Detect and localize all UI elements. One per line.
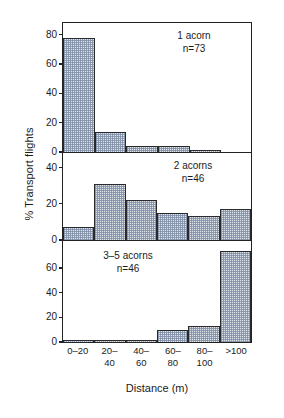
bar-80-100 bbox=[190, 150, 222, 152]
tick-mark bbox=[59, 167, 63, 168]
x-axis-title: Distance (m) bbox=[62, 382, 252, 394]
tick-mark bbox=[59, 267, 63, 268]
xtick-40-60: 40– 60 bbox=[125, 345, 157, 368]
bar-20-40 bbox=[94, 340, 125, 342]
tick-mark bbox=[59, 292, 63, 293]
figure-histogram-transport-flights: % Transport flights 0 20 bbox=[0, 0, 284, 418]
bar-80-100 bbox=[188, 326, 219, 342]
xtick-80-100: 80– 100 bbox=[189, 345, 221, 368]
x-axis-tick-labels: 0–20 20– 40 40– 60 60– 80 80– 100 >100 bbox=[62, 345, 252, 368]
panel-stack: 0 20 40 60 80 1 bbox=[62, 22, 252, 343]
tick-mark bbox=[59, 317, 63, 318]
panel-1-annotation: 1 acorn n=73 bbox=[151, 29, 237, 55]
panel-1-annotation-line1: 1 acorn bbox=[177, 30, 210, 41]
bar-0-20 bbox=[63, 340, 94, 342]
xtick-60-80: 60– 80 bbox=[157, 345, 189, 368]
panel-3-annotation-line2: n=46 bbox=[81, 262, 175, 275]
bar-60-80 bbox=[157, 330, 188, 342]
panel-2-annotation-line2: n=46 bbox=[147, 172, 239, 185]
bar-60-80 bbox=[158, 146, 190, 152]
tick-mark bbox=[59, 341, 63, 342]
plot-area-panel-2: 0 20 40 2 acorns n=46 bbox=[63, 153, 251, 240]
tick-label: 20 bbox=[46, 310, 57, 323]
panel-3-annotation-line1: 3–5 acorns bbox=[103, 250, 152, 261]
bar-40-60 bbox=[126, 146, 158, 152]
tick-label: 60 bbox=[46, 57, 57, 70]
tick-label: 40 bbox=[46, 161, 57, 174]
bar-over-100 bbox=[220, 251, 251, 342]
panel-1-acorn: 0 20 40 60 80 1 bbox=[62, 22, 252, 153]
panel-3-5-acorns: 0 20 40 60 3–5 acorns n=46 bbox=[62, 241, 252, 343]
panel-2-annotation: 2 acorns n=46 bbox=[147, 159, 239, 185]
xtick-0-20: 0–20 bbox=[62, 345, 94, 368]
y-axis-title: % Transport flights bbox=[23, 89, 35, 259]
tick-mark bbox=[59, 203, 63, 204]
panel-1-annotation-line2: n=73 bbox=[151, 42, 237, 55]
xtick-over-100: >100 bbox=[220, 345, 252, 368]
xtick-20-40: 20– 40 bbox=[94, 345, 126, 368]
tick-label: 0 bbox=[51, 335, 57, 348]
panel-2-acorns: 0 20 40 2 acorns n=46 bbox=[62, 153, 252, 241]
panel-3-annotation: 3–5 acorns n=46 bbox=[81, 249, 175, 275]
tick-label: 0 bbox=[51, 145, 57, 158]
bar-40-60 bbox=[126, 200, 157, 240]
bar-40-60 bbox=[126, 340, 157, 342]
bar-20-40 bbox=[94, 184, 125, 240]
plot-area-panel-3: 0 20 40 60 3–5 acorns n=46 bbox=[63, 241, 251, 342]
bar-0-20 bbox=[63, 38, 95, 152]
panel-2-annotation-line1: 2 acorns bbox=[174, 160, 212, 171]
bar-0-20 bbox=[63, 227, 94, 240]
tick-label: 40 bbox=[46, 86, 57, 99]
tick-label: 20 bbox=[46, 197, 57, 210]
tick-label: 0 bbox=[51, 233, 57, 246]
tick-label: 60 bbox=[46, 261, 57, 274]
tick-mark bbox=[59, 63, 63, 64]
bar-over-100 bbox=[220, 209, 251, 240]
plot-area-panel-1: 0 20 40 60 80 1 bbox=[63, 23, 251, 152]
bar-60-80 bbox=[157, 213, 188, 240]
tick-label: 40 bbox=[46, 286, 57, 299]
tick-label: 20 bbox=[46, 116, 57, 129]
tick-mark bbox=[59, 93, 63, 94]
tick-mark bbox=[59, 34, 63, 35]
tick-label: 80 bbox=[46, 28, 57, 41]
bar-20-40 bbox=[95, 132, 127, 153]
bar-80-100 bbox=[188, 216, 219, 240]
tick-mark bbox=[59, 122, 63, 123]
